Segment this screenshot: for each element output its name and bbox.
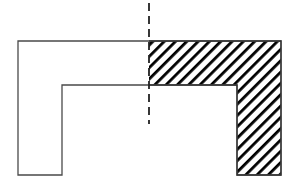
hatched-region — [149, 41, 281, 175]
u-shape-diagram — [0, 0, 299, 188]
